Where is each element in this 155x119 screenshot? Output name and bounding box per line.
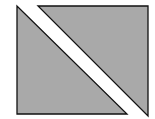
split-rectangle-diagram xyxy=(0,0,155,119)
